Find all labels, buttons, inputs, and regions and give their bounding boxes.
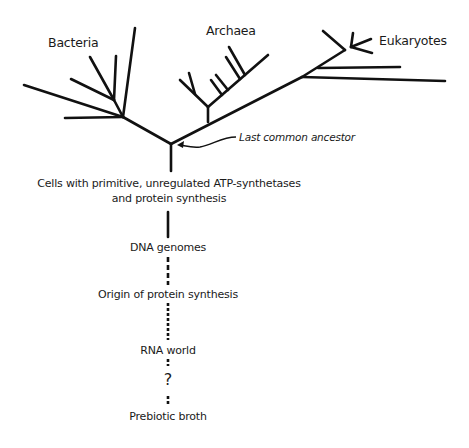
ancestor-arrow	[177, 137, 236, 148]
label-eukaryotes: Eukaryotes	[379, 33, 447, 48]
stage-rna-world: RNA world	[140, 344, 195, 357]
archaea-branches	[180, 47, 268, 122]
stage-unknown: ?	[164, 370, 172, 389]
label-bacteria: Bacteria	[48, 35, 98, 50]
stage-prebiotic-broth: Prebiotic broth	[129, 410, 206, 423]
stage-cells-line1: Cells with primitive, unregulated ATP-sy…	[37, 177, 300, 190]
tree-of-life-diagram: Bacteria Archaea Eukaryotes Last common …	[0, 0, 469, 448]
label-last-common-ancestor: Last common ancestor	[239, 131, 355, 143]
label-archaea: Archaea	[206, 23, 256, 38]
stage-dna-genomes: DNA genomes	[130, 241, 206, 254]
stage-cells-line2: and protein synthesis	[112, 192, 226, 205]
tree-lines	[0, 0, 469, 448]
stage-origin-protein-synthesis: Origin of protein synthesis	[98, 288, 238, 301]
